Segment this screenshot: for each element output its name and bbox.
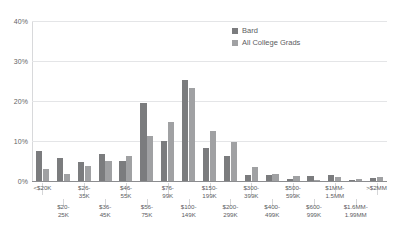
legend-swatch-icon [232, 40, 238, 46]
y-axis-tick-label: 20% [0, 98, 32, 105]
bar [182, 80, 188, 181]
x-axis-tick-label: <$20K [22, 184, 62, 192]
legend-item-all-college-grads: All College Grads [232, 38, 300, 47]
x-axis-tick-label: $100-149K [169, 203, 209, 218]
bar [245, 175, 251, 181]
y-axis-tick-label: 30% [0, 58, 32, 65]
gridline [32, 61, 387, 62]
x-axis-tick-label: $26-35K [64, 184, 104, 199]
bar [252, 167, 258, 181]
legend-label: Bard [242, 26, 258, 35]
x-axis-tick-label: $400-499K [252, 203, 292, 218]
bar [203, 148, 209, 181]
x-axis-tick-label: $300-399K [231, 184, 271, 199]
bar [189, 88, 195, 181]
bar [377, 177, 383, 181]
income-distribution-bar-chart: 0%10%20%30%40% Bard All College Grads <$… [0, 0, 393, 230]
bar [161, 141, 167, 181]
bar [287, 179, 293, 181]
x-axis-tick-label: $600-999K [294, 203, 334, 218]
x-axis-tick-label: $500-599K [273, 184, 313, 199]
gridline [32, 181, 387, 182]
x-axis-tick-label: $1.6MM-1.99MM [336, 203, 376, 218]
bar [85, 166, 91, 181]
bar [328, 175, 334, 181]
gridline [32, 101, 387, 102]
legend-label: All College Grads [242, 38, 300, 47]
bar [266, 175, 272, 181]
x-axis-tick-label: >$2MM [357, 184, 393, 192]
x-axis-tick-label: $46-55K [106, 184, 146, 199]
bar [43, 169, 49, 181]
bar [293, 176, 299, 181]
x-axis-tick-label: $76-99K [148, 184, 188, 199]
bar [224, 156, 230, 181]
bar [78, 162, 84, 181]
bar [335, 177, 341, 181]
bar [349, 180, 355, 181]
x-axis-tick-label: $150-199K [190, 184, 230, 199]
bar [314, 180, 320, 181]
legend-item-bard: Bard [232, 26, 300, 35]
x-axis-tick-label: $56-75K [127, 203, 167, 218]
bar [168, 122, 174, 181]
bar [126, 156, 132, 181]
bar [140, 103, 146, 181]
chart-legend: Bard All College Grads [232, 26, 300, 47]
bar [57, 158, 63, 181]
plot-area [32, 21, 387, 181]
y-axis-tick-label: 10% [0, 138, 32, 145]
legend-swatch-icon [232, 28, 238, 34]
bar [105, 161, 111, 181]
bar [99, 154, 105, 181]
bar [36, 151, 42, 181]
bar [272, 174, 278, 181]
x-axis-tick-label: $1MM-1.5MM [315, 184, 355, 199]
bar [307, 176, 313, 181]
bar [64, 174, 70, 181]
x-axis-tick-label: $36-45K [85, 203, 125, 218]
x-axis-tick-label: $200-299K [210, 203, 250, 218]
bar [147, 136, 153, 181]
x-axis-tick-labels: <$20K$20-25K$26-35K$36-45K$46-55K$56-75K… [32, 183, 387, 230]
y-axis-tick-label: 40% [0, 18, 32, 25]
bar [231, 142, 237, 181]
bar [370, 178, 376, 181]
bar [210, 131, 216, 181]
x-axis-tick-label: $20-25K [43, 203, 83, 218]
gridline [32, 21, 387, 22]
bar [356, 179, 362, 181]
bar [119, 161, 125, 181]
